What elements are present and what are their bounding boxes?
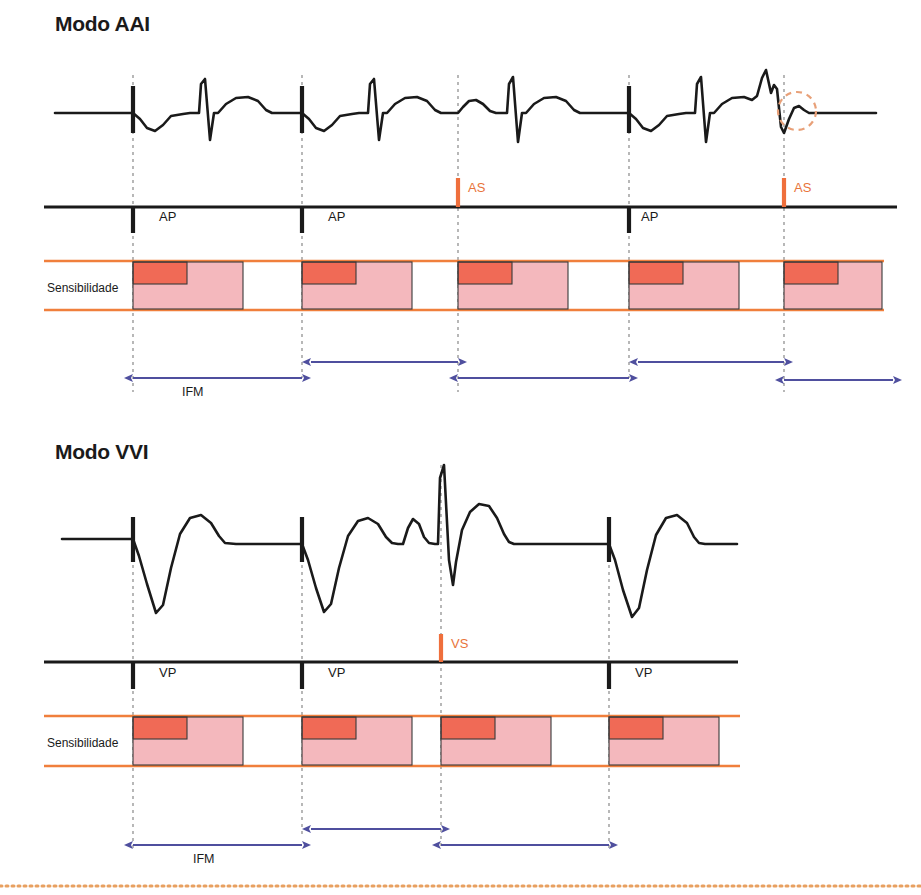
ecg-trace-vvi	[62, 465, 737, 617]
pace-spikes-ecg-vvi	[133, 517, 609, 562]
paced-event-markers-vvi	[133, 662, 609, 689]
cycle-aai-5	[784, 262, 882, 309]
sensitivity-band-aai	[44, 261, 884, 310]
cycle-vvi-3	[441, 717, 551, 765]
cycle-aai-4	[629, 262, 739, 309]
cycle-vvi-1	[133, 717, 243, 765]
interval-arrows-aai	[133, 362, 893, 380]
cycle-aai-2	[302, 262, 412, 309]
paced-event-markers-aai	[133, 207, 629, 233]
cycle-vvi-4	[609, 717, 719, 765]
sensed-event-markers-aai	[458, 178, 784, 207]
guide-lines-aai	[133, 75, 784, 392]
pacemaker-timing-figure: Modo AAI Modo VVI Sensibilidade Sensibil…	[0, 0, 921, 895]
cycle-aai-3	[458, 262, 568, 309]
guide-lines-vvi	[133, 465, 609, 848]
interval-arrows-vvi	[133, 829, 609, 845]
figure-graphics	[0, 0, 921, 895]
cycle-vvi-2	[302, 717, 412, 765]
ecg-trace-aai	[55, 70, 876, 142]
cycle-aai-1	[133, 262, 243, 309]
sensitivity-band-vvi	[44, 716, 740, 766]
